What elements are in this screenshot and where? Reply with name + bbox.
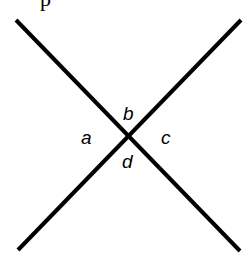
cropped-text-fragment: p xyxy=(40,0,51,11)
intersecting-lines-diagram: p a b c d xyxy=(0,0,251,271)
angle-label-d: d xyxy=(122,151,134,172)
angle-label-a: a xyxy=(81,127,92,148)
angle-label-b: b xyxy=(123,103,134,124)
angle-label-c: c xyxy=(161,127,171,148)
